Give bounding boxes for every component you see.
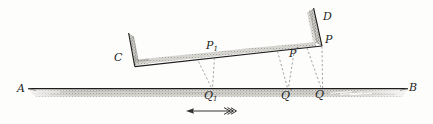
label-d-text: D	[323, 10, 332, 23]
label-c: C	[114, 52, 122, 63]
label-q-prime-text: Q	[281, 89, 290, 102]
label-b: B	[409, 82, 417, 93]
label-p-text: P	[325, 33, 332, 46]
label-p1-subscript: 1	[213, 45, 217, 53]
figure-canvas	[0, 0, 433, 124]
label-q-prime: Q′	[281, 89, 292, 101]
projection-line-5	[307, 48, 321, 88]
ground-surface	[28, 88, 408, 97]
geometry-figure: A B C D P1 P′ P Q1 Q′ Q	[0, 0, 433, 124]
label-q-text: Q	[315, 88, 324, 101]
label-q1: Q1	[204, 90, 218, 103]
label-p: P	[325, 34, 332, 45]
label-q1-text: Q	[204, 89, 213, 102]
label-p1: P1	[206, 40, 218, 53]
motion-arrow	[186, 108, 237, 115]
projection-line-1	[199, 62, 212, 88]
label-p-prime-prime-mark: ′	[296, 46, 298, 56]
label-b-text: B	[409, 81, 417, 94]
label-p-prime: P′	[289, 47, 298, 59]
projection-line-3	[278, 51, 288, 88]
label-q1-subscript: 1	[213, 95, 217, 103]
projection-line-2	[213, 58, 215, 88]
label-a: A	[17, 83, 25, 94]
label-q: Q	[315, 89, 324, 100]
label-q-prime-prime-mark: ′	[290, 88, 292, 98]
label-c-text: C	[114, 51, 122, 64]
label-d: D	[323, 11, 332, 22]
label-a-text: A	[17, 82, 25, 95]
projection-line-6	[322, 46, 323, 87]
